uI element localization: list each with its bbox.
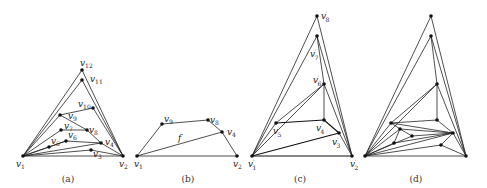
edge-d-d8-d2 [453, 133, 466, 156]
vertex-c-v8p [315, 14, 319, 18]
edge-d-d4-d5 [431, 36, 437, 84]
vertex-label-c-v3p: v′3 [332, 136, 340, 149]
face-label-b: f [177, 133, 183, 143]
vertex-b-v2 [235, 154, 239, 158]
vertex-label-b-v8: v8 [210, 115, 219, 126]
edge-c-v1p-v7p [252, 36, 317, 156]
vertex-b-v1 [135, 154, 139, 158]
vertex-d-d4 [429, 34, 433, 38]
vertex-b-v4 [220, 130, 224, 134]
panel-caption-0: (a) [62, 174, 74, 184]
vertex-d-d8 [451, 131, 455, 135]
vertex-label-b-v4: v4 [227, 127, 236, 138]
vertex-a-v10 [91, 106, 95, 110]
vertex-label-c-v7p: v′7 [310, 48, 318, 61]
vertex-d-d6 [389, 121, 393, 125]
edge-d-d9-d8 [400, 129, 453, 133]
vertex-label-c-v6p: v′6 [313, 74, 321, 87]
panel-caption-1: (b) [182, 174, 195, 184]
captions-layer: (a)(b)(c)(d) [62, 174, 423, 184]
edge-d-d6-d7 [391, 120, 437, 123]
vertex-label-b-v1: v1 [134, 159, 143, 170]
edge-d-d6-d5 [391, 84, 437, 123]
vertex-c-v2p [350, 154, 354, 158]
edge-a-v11-v2 [82, 80, 123, 156]
panel-caption-2: (c) [294, 174, 306, 184]
vertex-a-v11 [80, 78, 84, 82]
vertex-a-v4 [99, 141, 103, 145]
vertex-label-c-v8p: v′8 [321, 10, 329, 23]
vertex-label-a-v3: v3 [93, 149, 102, 160]
edge-a-v1-v3 [23, 150, 91, 156]
edge-d-d1-d5 [365, 84, 437, 156]
vertex-label-a-v9: v9 [68, 111, 77, 122]
vertex-label-a-v8: v8 [89, 125, 98, 136]
edge-c-v1p-v3p [252, 133, 339, 156]
vertex-label-a-v7: v7 [64, 121, 73, 132]
vertex-a-v7 [59, 128, 63, 132]
vertex-d-d5 [435, 82, 439, 86]
panel-caption-3: (d) [410, 174, 423, 184]
vertex-c-v3p [337, 131, 341, 135]
edge-d-d1-d4 [365, 36, 431, 156]
vertex-d-d2 [464, 154, 468, 158]
vertex-d-d3 [429, 14, 433, 18]
vertex-label-c-v2p: v′2 [350, 158, 358, 171]
edge-d-d3-d2 [431, 16, 466, 156]
edge-c-v1p-v6p [252, 84, 324, 156]
vertex-label-a-v5: v5 [51, 136, 60, 147]
edges-layer [23, 16, 466, 156]
edge-c-v5p-v6p [276, 84, 324, 123]
vertex-d-d9 [398, 127, 402, 131]
vertices-layer [21, 14, 468, 158]
edge-b-v1-v9 [137, 124, 162, 156]
vertex-label-a-v4: v4 [105, 137, 114, 148]
vertex-c-v4p [322, 118, 326, 122]
vertex-a-v1 [21, 154, 25, 158]
edge-c-v3p-v2p [339, 133, 352, 156]
figure-canvas: v1v2v3v4v5v6v7v8v9v10v11v12v1v2v9v8v4fv′… [0, 0, 487, 188]
vertex-label-c-v5p: v′5 [273, 125, 281, 138]
vertex-label-b-v9: v9 [164, 114, 173, 125]
vertex-label-c-v4p: v′4 [316, 122, 324, 135]
vertex-label-c-v1p: v′1 [248, 158, 256, 171]
edge-a-v6-v4 [66, 141, 101, 143]
edge-c-v4p-v3p [324, 120, 339, 133]
vertex-a-v9 [58, 113, 62, 117]
vertex-d-d1 [363, 154, 367, 158]
vertex-label-a-v11: v11 [90, 74, 103, 85]
vertex-c-v7p [315, 34, 319, 38]
vertex-a-v12 [80, 68, 84, 72]
vertex-d-d10 [410, 134, 414, 138]
labels-layer: v1v2v3v4v5v6v7v8v9v10v11v12v1v2v9v8v4fv′… [16, 10, 358, 171]
vertex-d-d7 [435, 118, 439, 122]
vertex-label-b-v2: v2 [233, 159, 242, 170]
vertex-label-a-v12: v12 [80, 58, 93, 69]
vertex-label-a-v10: v10 [78, 99, 91, 110]
vertex-label-a-v2: v2 [119, 159, 128, 170]
edge-c-v1p-v8p [252, 16, 317, 156]
vertex-a-v2 [121, 154, 125, 158]
vertex-label-a-v1: v1 [16, 159, 25, 170]
vertex-d-d11 [392, 141, 396, 145]
vertex-c-v6p [322, 82, 326, 86]
vertex-d-d12 [439, 143, 443, 147]
